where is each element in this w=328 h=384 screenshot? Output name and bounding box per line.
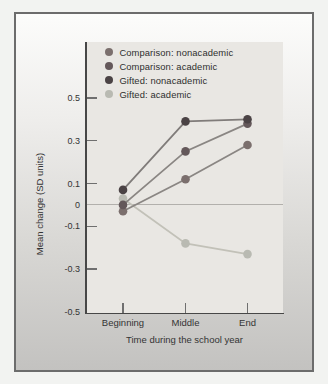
y-tick-label: -0.3	[38, 263, 80, 275]
data-point	[243, 141, 252, 150]
y-tick-label: 0.3	[38, 135, 80, 147]
x-tick-label: Middle	[151, 317, 221, 329]
data-point	[243, 115, 252, 124]
data-point	[119, 186, 128, 195]
data-point	[181, 117, 190, 126]
y-tick-label: -0.5	[38, 306, 80, 318]
x-tick-label: End	[213, 317, 283, 329]
data-point	[181, 147, 190, 156]
data-point	[119, 201, 128, 210]
data-point	[181, 175, 190, 184]
data-point	[243, 250, 252, 259]
line-chart	[86, 42, 283, 313]
series-line	[123, 124, 248, 205]
x-axis-title: Time during the school year	[85, 334, 285, 346]
x-tick-label: Beginning	[88, 317, 158, 329]
data-point	[181, 239, 190, 248]
y-tick-label: 0.5	[38, 92, 80, 104]
